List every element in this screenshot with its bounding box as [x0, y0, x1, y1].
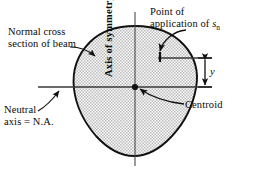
label-neutral-axis: Neutral axis = N.A. [4, 104, 54, 127]
stress-symbol-subscript: n [216, 23, 220, 32]
point-of-application-line1: Point of [150, 6, 220, 18]
centroid-marker [132, 84, 138, 90]
label-point-of-application: Point of application of sn [150, 6, 220, 33]
neutral-axis-line2: axis = N.A. [4, 116, 54, 128]
point-of-application-line2: application of sn [150, 18, 220, 34]
label-normal-cross-section: Normal cross section of beam [8, 26, 76, 49]
normal-cross-section-line2: section of beam [8, 38, 76, 50]
neutral-axis-line1: Neutral [4, 104, 54, 116]
label-axis-of-symmetry: Axis of symmetry [103, 0, 115, 77]
point-of-application-prefix: application of [150, 18, 212, 29]
label-centroid: Centroid [185, 99, 223, 111]
label-y-dimension: y [210, 66, 215, 78]
normal-cross-section-line1: Normal cross [8, 26, 76, 38]
beam-cross-section-figure: Normal cross section of beam Point of ap… [0, 0, 254, 175]
